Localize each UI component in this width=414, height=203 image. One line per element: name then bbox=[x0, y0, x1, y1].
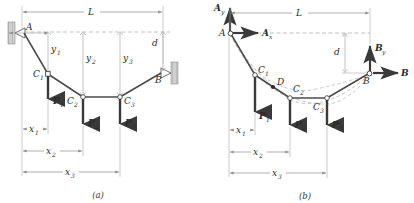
label-D-b: D bbox=[276, 77, 284, 87]
dimension-y3-a: y 3 bbox=[117, 32, 135, 96]
label-A-a: A bbox=[25, 22, 33, 32]
label-x2-a: x bbox=[46, 146, 51, 156]
label-C2-b: C bbox=[293, 84, 300, 94]
dimension-d-a: d bbox=[150, 32, 166, 71]
text-labels-b: A B C 1 D C 2 C 3 P 1 P 2 P 3 bbox=[218, 28, 370, 132]
label-C1-a: C bbox=[33, 69, 40, 79]
label-span-L-a: L bbox=[87, 7, 94, 17]
label-x3-a: x bbox=[65, 167, 70, 177]
dimension-x2-b: x 2 bbox=[230, 145, 289, 159]
reaction-By-b: B y bbox=[370, 43, 386, 71]
label-y3-a: y bbox=[122, 53, 129, 63]
label-sag-d-b: d bbox=[334, 47, 340, 57]
label-P1-a: P bbox=[52, 96, 60, 106]
label-x1-sub-b: 1 bbox=[242, 130, 246, 137]
dimension-L-b: L bbox=[230, 6, 370, 44]
label-Ax-sub-b: x bbox=[269, 33, 273, 40]
label-x2-b: x bbox=[253, 147, 258, 157]
panel-caption-b: (b) bbox=[299, 191, 311, 201]
dimension-d-b: d bbox=[332, 34, 367, 73]
label-C2-sub-b: 2 bbox=[299, 89, 304, 96]
label-P3-sub-b: 3 bbox=[339, 125, 343, 132]
dimension-y2-a: y 2 bbox=[80, 32, 98, 96]
label-C2-a: C bbox=[67, 96, 74, 106]
label-B-a: B bbox=[154, 75, 162, 85]
label-P3-sub-a: 3 bbox=[132, 123, 136, 130]
reaction-Ay-b: A y bbox=[213, 3, 230, 31]
label-P2-a: P bbox=[87, 118, 95, 128]
point-D-marker bbox=[271, 85, 275, 89]
label-Ay-sub-b: y bbox=[220, 8, 225, 16]
label-x3-sub-b: 3 bbox=[278, 173, 282, 180]
dimension-x3-b: x 3 bbox=[230, 166, 326, 180]
label-C2-sub-a: 2 bbox=[73, 101, 78, 108]
reaction-Ax-b: A x bbox=[233, 28, 273, 40]
cable-a bbox=[24, 33, 161, 97]
label-Ay-b: A bbox=[213, 3, 221, 13]
label-By-sub-b: y bbox=[381, 48, 386, 56]
label-span-L-b: L bbox=[295, 8, 302, 18]
label-y1-a: y bbox=[50, 44, 57, 54]
dimension-x3-a: x 3 bbox=[23, 165, 119, 179]
reaction-Bx-b: B bbox=[373, 68, 409, 78]
label-Ax-b: A bbox=[261, 28, 269, 38]
label-Bx-b: B bbox=[400, 68, 409, 78]
label-y2-a: y bbox=[85, 53, 92, 63]
label-C3-a: C bbox=[124, 96, 131, 106]
label-x1-sub-a: 1 bbox=[35, 129, 39, 136]
label-P2-sub-b: 2 bbox=[301, 125, 306, 132]
label-P3-a: P bbox=[124, 118, 132, 128]
label-B-b: B bbox=[362, 76, 370, 86]
label-P2-b: P bbox=[294, 120, 302, 130]
label-y3-sub-a: 3 bbox=[129, 58, 133, 65]
label-x3-b: x bbox=[272, 168, 277, 178]
diagram-svg: L y 1 y 2 y 3 bbox=[0, 0, 414, 203]
label-x1-b: x bbox=[236, 125, 241, 135]
dimension-x1-b: x 1 bbox=[230, 123, 254, 137]
label-P1-b: P bbox=[258, 111, 266, 121]
label-P1-sub-a: 1 bbox=[60, 101, 64, 108]
panel-a: L y 1 y 2 y 3 bbox=[8, 5, 178, 200]
label-sag-d-a: d bbox=[152, 38, 158, 48]
label-P1-sub-b: 1 bbox=[266, 116, 270, 123]
label-C3-b: C bbox=[313, 102, 320, 112]
label-x1-a: x bbox=[29, 124, 34, 134]
label-C3-sub-b: 3 bbox=[320, 107, 324, 114]
label-x2-sub-b: 2 bbox=[258, 152, 263, 159]
dimension-x2-a: x 2 bbox=[23, 144, 82, 158]
label-C3-sub-a: 3 bbox=[131, 101, 135, 108]
panel-caption-a: (a) bbox=[92, 190, 104, 200]
label-x3-sub-a: 3 bbox=[71, 172, 75, 179]
label-P3-b: P bbox=[331, 120, 339, 130]
label-P2-sub-a: 2 bbox=[94, 123, 99, 130]
label-A-b: A bbox=[218, 28, 226, 38]
label-y2-sub-a: 2 bbox=[91, 58, 96, 65]
label-C1-sub-a: 1 bbox=[40, 74, 44, 81]
support-b-pin bbox=[161, 62, 178, 84]
figure-canvas: L y 1 y 2 y 3 bbox=[0, 0, 414, 203]
label-C1-sub-b: 1 bbox=[265, 70, 269, 77]
dimension-x1-a: x 1 bbox=[23, 122, 47, 136]
label-x2-sub-a: 2 bbox=[51, 151, 56, 158]
label-C1-b: C bbox=[258, 65, 265, 75]
extension-lines-a bbox=[22, 36, 120, 177]
label-y1-sub-a: 1 bbox=[57, 49, 61, 56]
panel-b: A y A x B y B L bbox=[213, 3, 409, 201]
